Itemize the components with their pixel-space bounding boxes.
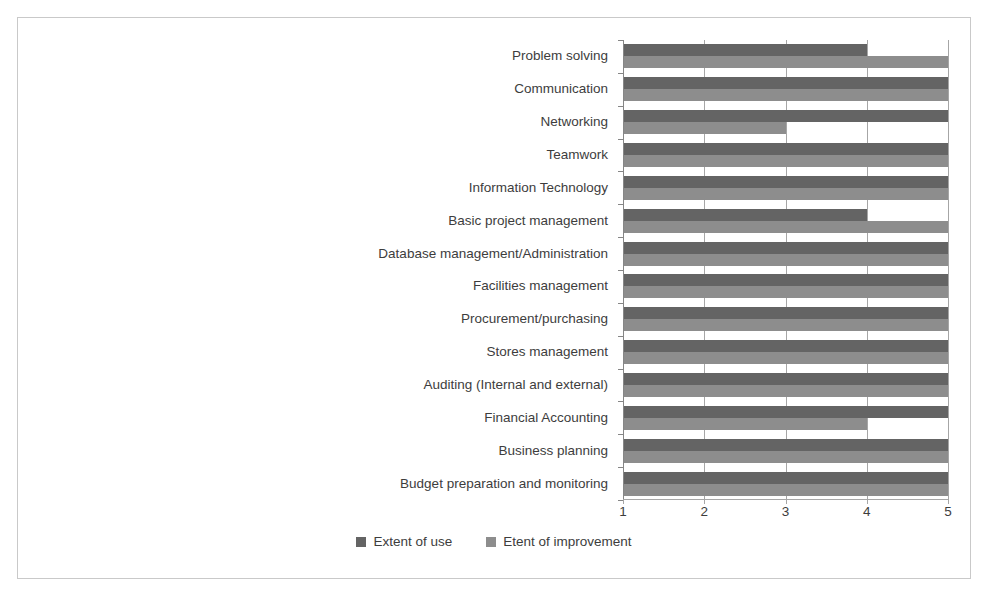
bar-group <box>623 303 949 336</box>
bar-extent-of-improvement <box>623 155 948 167</box>
legend-label: Etent of improvement <box>503 534 631 549</box>
y-tickmark <box>618 270 623 271</box>
bar-extent-of-use <box>623 77 948 89</box>
y-axis-label: Stores management <box>486 345 616 359</box>
y-tickmark <box>618 336 623 337</box>
y-axis-label: Auditing (Internal and external) <box>423 378 616 392</box>
plot-area <box>623 40 949 500</box>
bar-extent-of-improvement <box>623 352 948 364</box>
y-tickmark <box>618 434 623 435</box>
bar-extent-of-improvement <box>623 319 948 331</box>
x-axis-tick-labels: 12345 <box>623 504 949 526</box>
y-tickmark <box>618 204 623 205</box>
bar-extent-of-use <box>623 307 948 319</box>
x-axis-tick-label-3: 3 <box>782 504 790 519</box>
bar-extent-of-use <box>623 439 948 451</box>
bar-group <box>623 40 949 73</box>
y-axis-label: Information Technology <box>469 181 616 195</box>
y-axis-label: Problem solving <box>512 49 616 63</box>
bar-extent-of-improvement <box>623 221 948 233</box>
bar-extent-of-use <box>623 274 948 286</box>
y-tickmark <box>618 500 623 501</box>
y-axis-label: Teamwork <box>546 148 616 162</box>
y-tickmark <box>618 171 623 172</box>
bar-extent-of-use <box>623 472 948 484</box>
bar-group <box>623 270 949 303</box>
x-axis-line <box>623 499 949 500</box>
bar-group <box>623 204 949 237</box>
y-tickmark <box>618 401 623 402</box>
y-tickmark <box>618 106 623 107</box>
bar-extent-of-use <box>623 143 948 155</box>
bar-group <box>623 434 949 467</box>
bar-extent-of-use <box>623 373 948 385</box>
y-axis-label: Procurement/purchasing <box>461 312 616 326</box>
chart-screenshot: Problem solvingCommunicationNetworkingTe… <box>0 0 989 597</box>
bar-extent-of-improvement <box>623 385 948 397</box>
bar-extent-of-use <box>623 44 867 56</box>
y-tickmark <box>618 73 623 74</box>
y-axis-label: Budget preparation and monitoring <box>400 477 616 491</box>
legend-label: Extent of use <box>373 534 452 549</box>
y-tickmark <box>618 237 623 238</box>
bar-group <box>623 237 949 270</box>
x-axis-tick-label-1: 1 <box>619 504 627 519</box>
bar-group <box>623 139 949 172</box>
y-axis-label: Financial Accounting <box>484 411 616 425</box>
y-axis-label: Facilities management <box>473 279 616 293</box>
bar-group <box>623 336 949 369</box>
y-tickmark <box>618 369 623 370</box>
y-tickmark <box>618 303 623 304</box>
bar-group <box>623 73 949 106</box>
bar-extent-of-improvement <box>623 451 948 463</box>
bar-extent-of-use <box>623 340 948 352</box>
bar-extent-of-use <box>623 176 948 188</box>
bar-extent-of-improvement <box>623 418 867 430</box>
bar-extent-of-improvement <box>623 122 786 134</box>
bar-extent-of-use <box>623 110 948 122</box>
x-axis-tick-label-2: 2 <box>700 504 708 519</box>
bar-extent-of-improvement <box>623 286 948 298</box>
legend-entry[interactable]: Etent of improvement <box>486 534 631 549</box>
bar-extent-of-improvement <box>623 89 948 101</box>
bar-group <box>623 106 949 139</box>
y-axis-label: Business planning <box>498 444 616 458</box>
bar-extent-of-improvement <box>623 484 948 496</box>
y-axis-category-labels: Problem solvingCommunicationNetworkingTe… <box>18 40 616 500</box>
x-axis-tick-label-5: 5 <box>944 504 952 519</box>
bar-extent-of-improvement <box>623 56 948 68</box>
bar-extent-of-improvement <box>623 188 948 200</box>
bar-extent-of-use <box>623 209 867 221</box>
legend-entry[interactable]: Extent of use <box>356 534 452 549</box>
y-axis-label: Communication <box>514 82 616 96</box>
x-axis-tick-label-4: 4 <box>863 504 871 519</box>
y-axis-label: Database management/Administration <box>378 247 616 261</box>
chart-frame: Problem solvingCommunicationNetworkingTe… <box>17 17 971 579</box>
bar-group <box>623 401 949 434</box>
y-tickmark <box>618 40 623 41</box>
y-tickmark <box>618 139 623 140</box>
chart-legend: Extent of useEtent of improvement <box>18 534 970 549</box>
bar-group <box>623 369 949 402</box>
y-axis-line <box>623 40 624 500</box>
y-axis-label: Basic project management <box>448 214 616 228</box>
y-tickmark <box>618 467 623 468</box>
bar-group <box>623 467 949 500</box>
bar-group <box>623 171 949 204</box>
bar-extent-of-improvement <box>623 254 948 266</box>
legend-swatch-use <box>356 537 366 547</box>
bar-extent-of-use <box>623 242 948 254</box>
bar-extent-of-use <box>623 406 948 418</box>
chart-inner: Problem solvingCommunicationNetworkingTe… <box>18 18 970 578</box>
legend-swatch-improvement <box>486 537 496 547</box>
y-axis-label: Networking <box>540 115 616 129</box>
